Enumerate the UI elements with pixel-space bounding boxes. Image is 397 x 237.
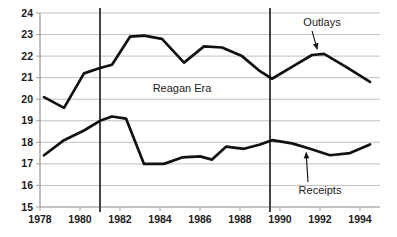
y-axis-label-23: 23	[21, 28, 33, 40]
x-axis-label-1980: 1980	[68, 213, 92, 225]
chart-container: 15161718192021222324 1978198019821984198…	[0, 0, 397, 237]
x-axis-label-1982: 1982	[108, 213, 132, 225]
x-axis-label-1990: 1990	[268, 213, 292, 225]
y-axis-label-20: 20	[21, 93, 33, 105]
x-axis-label-1984: 1984	[148, 213, 172, 225]
x-axis-tick-labels: 197819801982198419861988199019921994	[28, 213, 372, 225]
line-chart: 15161718192021222324 1978198019821984198…	[0, 0, 397, 237]
chart-background	[0, 0, 397, 237]
x-axis-label-1986: 1986	[188, 213, 212, 225]
y-axis-label-16: 16	[21, 179, 33, 191]
y-axis-label-15: 15	[21, 201, 33, 213]
x-axis-label-1978: 1978	[28, 213, 52, 225]
y-axis-label-22: 22	[21, 50, 33, 62]
annotation-label-receipts: Receipts	[299, 184, 342, 196]
y-axis-label-21: 21	[21, 71, 33, 83]
y-axis-label-24: 24	[21, 7, 33, 19]
y-axis-label-19: 19	[21, 114, 33, 126]
x-axis-label-1992: 1992	[308, 213, 332, 225]
y-axis-label-18: 18	[21, 136, 33, 148]
y-axis-label-17: 17	[21, 157, 33, 169]
annotation-label-reagan-era: Reagan Era	[153, 82, 213, 94]
x-axis-label-1988: 1988	[228, 213, 252, 225]
annotation-label-outlays: Outlays	[303, 16, 341, 28]
x-axis-label-1994: 1994	[348, 213, 372, 225]
